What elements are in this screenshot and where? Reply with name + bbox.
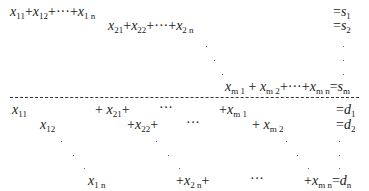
column-sum-row-1-col2: + x21+ (95, 103, 130, 117)
ellipsis-dot (343, 60, 344, 61)
ellipsis-dot (73, 155, 74, 156)
ellipsis-dot (61, 141, 62, 142)
ellipsis-dot (156, 141, 157, 142)
column-sum-row-n-col1: x1 n (88, 174, 105, 188)
column-sum-row-n-col2: +x2 n+ (176, 174, 209, 188)
ellipsis-dot (214, 60, 215, 61)
column-sum-row-n-colm: +xm n=dn (304, 174, 351, 188)
ellipsis-dot (297, 155, 298, 156)
separator-line (10, 97, 359, 98)
ellipsis-dot (339, 168, 340, 169)
column-sum-row-1-col1: x11 (12, 103, 27, 117)
ellipsis-dot (206, 46, 207, 47)
ellipsis-dot (343, 74, 344, 75)
column-sum-row-2-colm: + xm 2 (252, 118, 283, 132)
ellipsis-dot (339, 155, 340, 156)
equation-row-2: x21+x22+···+x2 n (108, 19, 194, 33)
ellipsis-dot (168, 155, 169, 156)
column-sum-row-1-colm: +xm 1 (219, 103, 247, 117)
column-sum-row-2-ellipsis: ··· (186, 116, 200, 130)
equation-row-2-rhs: =s2 (333, 19, 351, 33)
column-sum-row-n-ellipsis: ··· (250, 172, 264, 186)
ellipsis-dot (286, 141, 287, 142)
equation-row-m: xm 1 + xm 2+···+xm n=sm (225, 80, 350, 94)
ellipsis-dot (308, 168, 309, 169)
ellipsis-dot (339, 141, 340, 142)
equation-row-1: x11+x12+···+x1 n (10, 5, 95, 19)
equation-row-1-rhs: =s1 (333, 5, 351, 19)
ellipsis-dot (179, 168, 180, 169)
column-sum-row-2-rhs: =d2 (336, 118, 355, 132)
ellipsis-dot (343, 46, 344, 47)
ellipsis-dot (84, 168, 85, 169)
ellipsis-dot (222, 74, 223, 75)
column-sum-row-1-ellipsis: ··· (159, 101, 173, 115)
column-sum-row-2-col2: +x22+ (127, 118, 158, 132)
column-sum-row-1-rhs: =d1 (336, 103, 355, 117)
column-sum-row-2-col1: x12 (40, 118, 55, 132)
